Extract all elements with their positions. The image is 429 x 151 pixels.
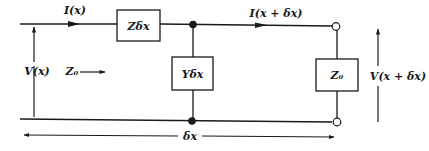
output-voltage-label: V(x + δx) [370,70,426,83]
series-impedance-label: Zδx [127,20,150,33]
input-current-label: I(x) [63,4,86,17]
top-conductor [20,21,332,28]
current-arrow-icon [255,23,267,29]
load-impedance-label: Z₀ [330,69,344,82]
shunt-admittance-label: Yδx [182,68,204,81]
output-current-label: I(x + δx) [249,7,303,20]
terminal-circle-icon [332,23,340,31]
length-arrow-right-icon [202,136,334,137]
terminal-circle-icon [333,118,341,126]
junction-dot-icon [188,117,196,125]
length-arrow-left-icon [24,135,178,136]
section-length-label: δx [182,130,197,143]
current-arrow-icon [68,21,80,27]
bottom-conductor [20,119,332,122]
circuit-diagram: Zδx Yδx Z₀ V(x) I(x) I(x + δx) Z₀ V(x + … [0,0,429,151]
characteristic-impedance-label: Z₀ [65,65,79,78]
input-voltage-label: V(x) [24,65,50,78]
